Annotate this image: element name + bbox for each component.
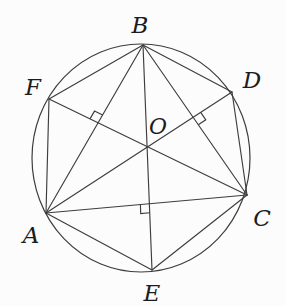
chord-CE [152,195,247,270]
circle-outline [32,44,250,272]
chord-CD [232,92,247,195]
figure-canvas: ABCDEFO [0,0,286,306]
chord-AD [46,92,232,213]
point-label-C: C [253,205,271,231]
point-label-B: B [131,12,149,38]
right-angle-mark-BE-perp-AC [140,205,149,214]
point-label-A: A [21,222,40,248]
point-label-E: E [143,280,161,306]
chord-AE [46,213,152,270]
point-label-F: F [24,74,42,100]
chord-BD [143,45,232,92]
chord-BF [49,45,143,99]
chord-AB [46,45,143,213]
chord-AC [46,195,247,213]
point-label-O: O [149,114,167,139]
geometry-diagram: ABCDEFO [0,0,286,306]
chord-BE [143,45,152,270]
point-label-D: D [242,67,261,93]
right-angle-mark-AD-perp-BC [198,112,206,124]
chord-AF [46,99,49,213]
